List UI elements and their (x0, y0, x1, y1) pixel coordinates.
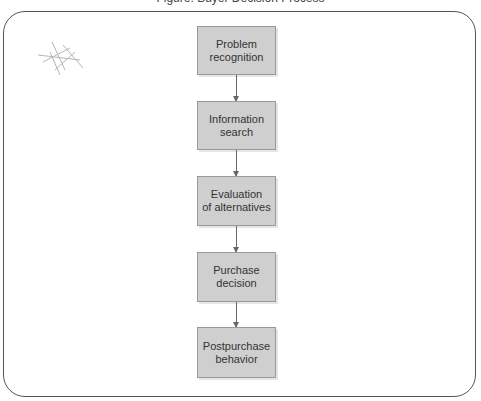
step-purchase-decision: Purchasedecision (197, 252, 276, 302)
scribble-mark (35, 40, 85, 80)
step-evaluation-of-alternatives: Evaluationof alternatives (197, 176, 276, 226)
step-problem-recognition: Problemrecognition (197, 26, 276, 75)
step-label-line1: Evaluation (202, 188, 270, 201)
step-information-search: Informationsearch (197, 101, 276, 150)
step-label-line1: Problem (210, 38, 264, 51)
arrow-down-2 (236, 150, 237, 176)
step-label-line2: search (209, 126, 264, 139)
arrow-down-3 (236, 226, 237, 252)
step-label-line1: Information (209, 113, 264, 126)
step-label-line2: recognition (210, 51, 264, 64)
step-postpurchase-behavior: Postpurchasebehavior (197, 327, 276, 378)
step-label-line2: of alternatives (202, 201, 270, 214)
arrow-down-4 (236, 302, 237, 327)
figure-title-clipped: Figure: Buyer Decision Process (0, 0, 481, 5)
step-label-line2: behavior (203, 353, 270, 366)
step-label-line2: decision (213, 277, 259, 290)
step-label-line1: Postpurchase (203, 340, 270, 353)
arrow-down-1 (236, 75, 237, 101)
step-label-line1: Purchase (213, 264, 259, 277)
